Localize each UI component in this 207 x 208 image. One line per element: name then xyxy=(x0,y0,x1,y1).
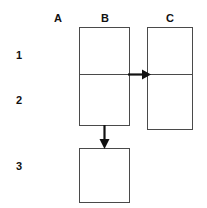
box-c-divider xyxy=(148,74,192,75)
row-label-3: 3 xyxy=(12,160,26,172)
column-header-a: A xyxy=(48,12,68,24)
row-label-2: 2 xyxy=(12,94,26,106)
row-label-1: 1 xyxy=(12,49,26,61)
box-b-rows-1-2 xyxy=(79,27,130,126)
box-b-row-3 xyxy=(79,148,130,203)
column-header-c: C xyxy=(160,12,180,24)
box-b-divider xyxy=(80,74,129,75)
arrow-b-to-b3 xyxy=(96,124,114,152)
diagram-canvas: A B C 1 2 3 xyxy=(0,0,207,208)
column-header-b: B xyxy=(95,12,115,24)
arrow-b-to-c xyxy=(126,66,154,84)
